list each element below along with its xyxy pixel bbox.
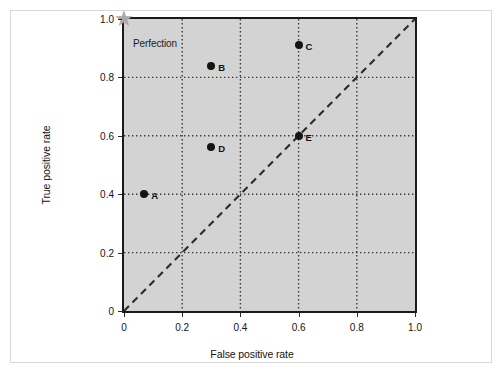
data-point-e xyxy=(295,132,303,140)
chance-diagonal-line xyxy=(124,19,415,311)
y-tick-mark xyxy=(118,253,122,254)
y-tick-mark xyxy=(118,194,122,195)
data-point-label-c: C xyxy=(306,41,313,52)
data-point-label-e: E xyxy=(306,131,312,142)
y-tick-mark xyxy=(118,19,122,20)
x-tick-label: 1.0 xyxy=(408,322,422,333)
x-tick-label: 0.2 xyxy=(175,322,189,333)
x-tick-label: 0.8 xyxy=(350,322,364,333)
y-tick-label: 0.4 xyxy=(82,189,114,200)
x-tick-mark xyxy=(182,313,183,317)
data-point-label-d: D xyxy=(218,143,225,154)
plot-area: ★ Perfection ABCDE xyxy=(122,17,417,313)
y-axis-label: True positive rate xyxy=(40,126,52,205)
x-tick-mark xyxy=(124,313,125,317)
data-point-b xyxy=(207,62,215,70)
data-point-label-b: B xyxy=(218,61,225,72)
y-tick-mark xyxy=(118,311,122,312)
y-tick-label: 1.0 xyxy=(82,14,114,25)
x-axis-label: False positive rate xyxy=(0,348,504,360)
y-tick-mark xyxy=(118,77,122,78)
y-tick-label: 0.2 xyxy=(82,247,114,258)
y-tick-mark xyxy=(118,136,122,137)
data-point-c xyxy=(295,41,303,49)
x-tick-label: 0.6 xyxy=(292,322,306,333)
y-tick-label: 0 xyxy=(82,306,114,317)
perfection-annotation-label: Perfection xyxy=(133,38,177,49)
roc-figure: ★ Perfection ABCDE 00.20.40.60.81.0 00.2… xyxy=(0,0,504,375)
x-tick-label: 0.4 xyxy=(233,322,247,333)
y-tick-label: 0.8 xyxy=(82,72,114,83)
x-tick-label: 0 xyxy=(121,322,127,333)
plot-inner xyxy=(124,19,415,311)
x-tick-mark xyxy=(299,313,300,317)
chance-diagonal xyxy=(124,19,415,311)
y-tick-label: 0.6 xyxy=(82,130,114,141)
x-tick-mark xyxy=(357,313,358,317)
perfection-star-icon: ★ xyxy=(113,8,135,30)
x-tick-mark xyxy=(415,313,416,317)
x-tick-mark xyxy=(240,313,241,317)
data-point-label-a: A xyxy=(151,190,158,201)
